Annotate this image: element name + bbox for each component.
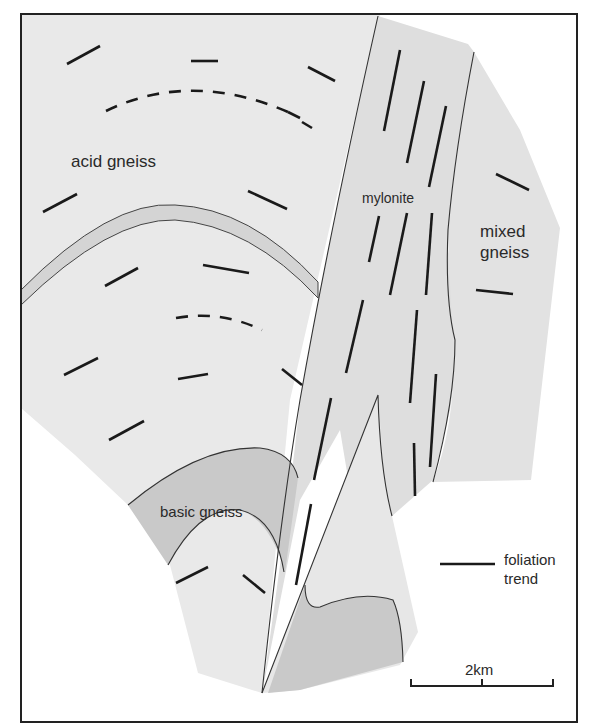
label-acid-gneiss: acid gneiss <box>71 152 156 171</box>
geological-map: acid gneiss mylonite mixed gneiss basic … <box>0 0 591 727</box>
scale-bar: 2km <box>411 661 553 686</box>
legend: foliation trend <box>440 551 556 587</box>
label-basic-gneiss: basic gneiss <box>160 503 243 520</box>
legend-label-line2: trend <box>504 570 538 587</box>
scale-bar-label: 2km <box>465 661 493 678</box>
label-mixed-gneiss-line2: gneiss <box>480 243 529 262</box>
label-mixed-gneiss-line1: mixed <box>480 222 525 241</box>
legend-label-line1: foliation <box>504 551 556 568</box>
label-mylonite: mylonite <box>362 190 414 206</box>
